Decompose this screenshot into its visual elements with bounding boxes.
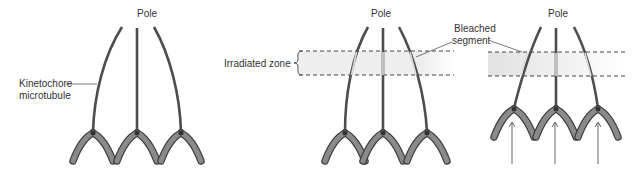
mitosis-diagram: Pole Kinetochore microtubule Irradiated … — [0, 0, 643, 173]
bleached-leader-line — [488, 40, 522, 52]
pole-label: Pole — [371, 8, 391, 19]
panel-before: Pole Kinetochore microtubule — [19, 8, 201, 161]
chromosome — [363, 131, 403, 162]
movement-arrow — [595, 122, 601, 164]
movement-arrow — [509, 122, 515, 164]
irradiated-zone — [299, 51, 454, 75]
microtubule-label-line1: Kinetochore — [19, 78, 73, 89]
chromosome — [117, 131, 157, 162]
chromosome — [73, 131, 113, 162]
bleached-label-line1: Bleached — [454, 23, 496, 34]
panel-irradiated: Irradiated zone Pole Bleached segment — [224, 8, 496, 161]
microtubule-left — [93, 27, 122, 132]
microtubule-right — [399, 27, 427, 132]
irradiated-zone-label: Irradiated zone — [224, 58, 291, 69]
bleached-label-line2: segment — [452, 35, 491, 46]
chromosome — [325, 131, 365, 162]
chromosome — [161, 131, 201, 162]
pole-label: Pole — [137, 8, 157, 19]
chromosome — [407, 131, 447, 162]
chromosome — [494, 107, 534, 138]
microtubule-right — [154, 27, 181, 132]
panel-after: Pole — [488, 8, 626, 164]
microtubule-left — [345, 27, 368, 132]
pole-label: Pole — [548, 8, 568, 19]
chromosome — [536, 107, 576, 138]
movement-arrow — [552, 122, 558, 164]
microtubule-label-line2: microtubule — [19, 90, 71, 101]
